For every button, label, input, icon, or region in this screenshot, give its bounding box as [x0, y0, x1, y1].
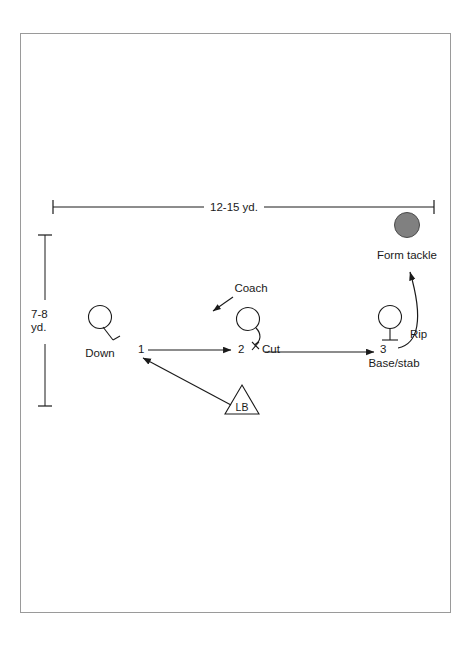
coach-arrow-icon: [213, 297, 233, 311]
filled-circle-icon: [395, 213, 420, 238]
path-lb-to-1-arrow: [143, 358, 231, 405]
drill-diagram: 12-15 yd. 7-8 yd. Form tackle Down 1: [0, 0, 475, 647]
coach-annotation: Coach: [213, 282, 268, 311]
player-stem-icon: [103, 327, 113, 340]
vertical-dimension: 7-8 yd.: [31, 235, 52, 406]
diagram-page: 12-15 yd. 7-8 yd. Form tackle Down 1: [0, 0, 475, 647]
station-3-number: 3: [380, 343, 386, 355]
vertical-dimension-label-line1: 7-8: [31, 308, 48, 320]
station-1-player: Down 1: [85, 306, 144, 360]
linebacker-label: LB: [236, 401, 249, 413]
form-tackle-marker: Form tackle: [377, 213, 437, 262]
coach-label: Coach: [234, 282, 267, 294]
rip-path: Rip: [398, 272, 427, 348]
station-2-number: 2: [238, 343, 244, 355]
player-circle-icon: [379, 306, 402, 329]
station-2-player: 2 Cut: [237, 308, 281, 356]
form-tackle-label: Form tackle: [377, 249, 437, 261]
horizontal-dimension: 12-15 yd.: [53, 200, 434, 214]
station-1-label: Down: [85, 347, 114, 359]
station-1-number: 1: [138, 343, 144, 355]
player-stem-hook-icon: [113, 336, 120, 340]
player-circle-icon: [89, 306, 112, 329]
horizontal-dimension-label: 12-15 yd.: [210, 201, 258, 213]
station-3-label: Base/stab: [368, 357, 419, 369]
player-circle-icon: [237, 308, 260, 331]
cut-mark-icon: [252, 342, 259, 350]
vertical-dimension-label-line2: yd.: [31, 321, 46, 333]
station-2-label: Cut: [262, 343, 281, 355]
linebacker-marker: LB: [225, 385, 259, 414]
rip-label: Rip: [410, 328, 427, 340]
